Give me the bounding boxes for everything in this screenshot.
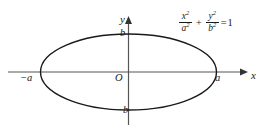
equation-plus-operator: + [193,18,205,28]
equation-term-1-numerator-exponent: 2 [186,9,189,16]
origin-label: O [115,73,123,84]
equation-term-1-denominator-exponent: 2 [186,21,189,28]
y-axis-label: y [120,14,125,25]
equation-term-2-numerator-exponent: 2 [213,9,216,16]
vertex-label-negative-a: −a [20,73,32,84]
equation-right-hand-side: 1 [227,18,233,29]
x-axis-arrowhead [240,68,248,75]
vertex-label-a: a [215,73,220,84]
y-axis-arrowhead [125,16,132,24]
ellipse-figure: y x b −b a −a O x2 a2 + y2 b2 = 1 [0,0,265,133]
vertex-label-b: b [120,28,125,39]
equation-term-2-denominator: b2 [206,24,218,34]
x-axis-label: x [251,70,256,81]
equation-term-1-denominator: a2 [180,24,192,34]
equation-equals-sign: = [220,18,227,29]
ellipse-equation: x2 a2 + y2 b2 = 1 [178,12,233,34]
equation-term-2-denominator-exponent: 2 [213,21,216,28]
equation-term-2: y2 b2 [206,12,219,34]
vertex-label-negative-b: −b [116,105,128,116]
equation-term-1: x2 a2 [179,12,192,34]
